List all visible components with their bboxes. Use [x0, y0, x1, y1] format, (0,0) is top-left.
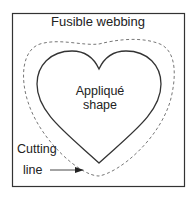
cutting-line-label: Cutting line [17, 142, 57, 177]
cutting-label-line2: line [17, 163, 57, 177]
applique-shape-label: Appliqué shape [60, 84, 140, 112]
fusible-webbing-label: Fusible webbing [0, 15, 196, 29]
cutting-label-line1: Cutting [17, 142, 57, 156]
applique-label-line1: Appliqué [60, 84, 140, 98]
applique-label-line2: shape [60, 98, 140, 112]
